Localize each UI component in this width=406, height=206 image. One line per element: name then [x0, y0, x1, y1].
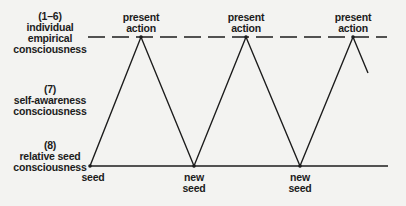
seed-text: seed — [179, 183, 209, 194]
new-seed-dot — [192, 164, 196, 168]
peak-text: action — [328, 23, 378, 34]
seed-text: seed — [285, 183, 315, 194]
peak-label: present action — [221, 12, 271, 34]
seed-text: seed — [78, 172, 108, 183]
peak-text: action — [221, 23, 271, 34]
level-label-empirical: (1–6) individual empirical consciousness — [10, 11, 90, 55]
level-text: consciousness — [10, 106, 90, 117]
level-label-seed: (8) relative seed consciousness — [10, 140, 90, 173]
level-text: consciousness — [10, 44, 90, 55]
peak-label: present action — [328, 12, 378, 34]
level-label-self-awareness: (7) self-awareness consciousness — [10, 84, 90, 117]
new-seed-dot — [298, 164, 302, 168]
seed-label: seed — [78, 172, 108, 183]
peak-dot — [244, 35, 248, 39]
peak-text: action — [116, 23, 166, 34]
consciousness-cycle-diagram: (1–6) individual empirical consciousness… — [0, 0, 406, 206]
new-seed-label: new seed — [285, 172, 315, 194]
zigzag-path — [90, 37, 368, 166]
peak-dot — [351, 35, 355, 39]
peak-dot — [139, 35, 143, 39]
peak-label: present action — [116, 12, 166, 34]
new-seed-label: new seed — [179, 172, 209, 194]
